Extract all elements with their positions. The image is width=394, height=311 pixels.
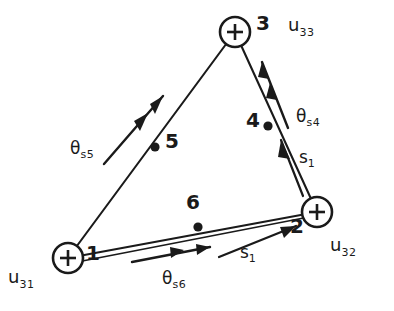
rotation-label-theta-s5: θs5: [70, 140, 94, 160]
s1-edge-12-base: s: [240, 242, 249, 262]
theta-s4-base: θ: [296, 106, 306, 126]
node-label-2: 2: [290, 216, 304, 236]
u31-base: u: [8, 266, 19, 287]
s1-edge-32-base: s: [299, 147, 308, 167]
node-marker-6[interactable]: [193, 222, 202, 231]
node-label-3: 3: [256, 13, 270, 33]
u32-subscript: 32: [341, 246, 356, 259]
node-marker-5[interactable]: [150, 142, 159, 151]
u33-subscript: 33: [299, 26, 314, 39]
theta-s5-base: θ: [70, 138, 80, 158]
displacement-label-u33: u33: [288, 16, 314, 38]
theta-s5-subscript: s5: [80, 148, 94, 161]
rotation-arrow-theta-s4: [258, 62, 288, 128]
theta-s6-subscript: s6: [172, 278, 186, 291]
rotation-arrow-theta-s6-head-outer: [196, 244, 210, 255]
rotation-label-theta-s4: θs4: [296, 108, 320, 128]
node-marker-3[interactable]: [220, 17, 250, 47]
frame-diagram-svg: [0, 0, 394, 311]
s1-edge-12-subscript: 1: [249, 252, 256, 265]
force-label-s1-edge-12: s1: [240, 244, 256, 264]
displacement-label-u32: u32: [330, 236, 356, 258]
frame-edges: [68, 32, 317, 263]
s1-edge-32-subscript: 1: [308, 157, 315, 170]
node-marker-2[interactable]: [302, 197, 332, 227]
theta-s6-base: θ: [162, 268, 172, 288]
node-label-5: 5: [165, 131, 179, 151]
rotation-arrow-theta-s5-head-outer: [150, 96, 163, 114]
rotation-arrow-theta-s5: [104, 96, 163, 164]
node-marker-4[interactable]: [263, 121, 272, 130]
force-arrow-s1-edge-12: [219, 226, 296, 257]
u33-base: u: [288, 14, 299, 35]
rotation-label-theta-s6: θs6: [162, 270, 186, 290]
node-label-6: 6: [186, 192, 200, 212]
u32-base: u: [330, 234, 341, 255]
figure-root: 1 2 3 4 5 6 u31 u32 u33 θs5 θs4 θs6 s1 s…: [0, 0, 394, 311]
displacement-label-u31: u31: [8, 268, 34, 290]
node-marker-1[interactable]: [53, 243, 83, 273]
node-label-1: 1: [86, 243, 100, 263]
force-label-s1-edge-32: s1: [299, 149, 315, 169]
theta-s4-subscript: s4: [306, 116, 320, 129]
node-label-4: 4: [246, 110, 260, 130]
rotation-arrow-theta-s6: [132, 244, 210, 262]
u31-subscript: 31: [19, 278, 34, 291]
edge-1-2-lower: [72, 216, 314, 263]
